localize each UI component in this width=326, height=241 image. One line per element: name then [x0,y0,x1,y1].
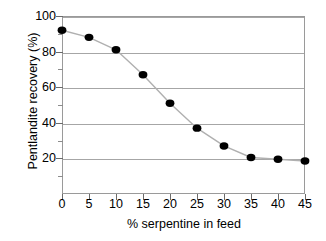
y-tick-mark [56,16,63,17]
x-tick-label: 45 [288,197,322,211]
gridline-y [63,53,304,54]
plot-area [62,16,305,194]
gridline-y [63,159,304,160]
gridline-y [63,88,304,89]
y-tick-mark-minor [58,176,63,177]
y-tick-mark [56,52,63,53]
y-tick-mark [56,158,63,159]
y-tick-mark-minor [58,105,63,106]
y-tick-label: 80 [16,45,56,59]
chart-figure: Pentlandite recovery (%) 20406080100 % s… [0,0,326,241]
x-axis-title: % serpentine in feed [62,217,306,231]
y-tick-label: 100 [16,9,56,23]
gridline-y [63,124,304,125]
y-tick-label: 40 [16,116,56,130]
y-tick-mark-minor [58,34,63,35]
y-tick-mark [56,87,63,88]
y-tick-label: 20 [16,151,56,165]
y-tick-label: 60 [16,80,56,94]
gridline-y [63,17,304,18]
y-tick-mark [56,123,63,124]
y-tick-mark-minor [58,69,63,70]
y-tick-mark-minor [58,141,63,142]
